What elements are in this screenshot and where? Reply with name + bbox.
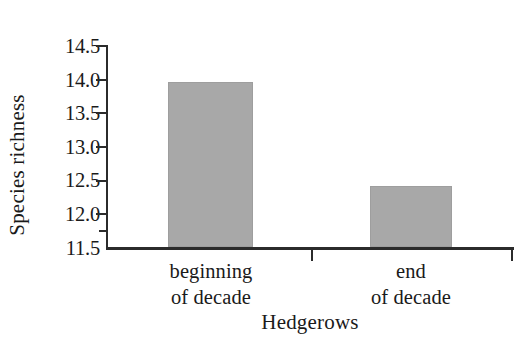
y-tick-label-13-5: 13.5 [34, 103, 100, 124]
x-tick-mark-separator [311, 248, 313, 261]
y-tick-mark-12-0 [96, 213, 108, 215]
y-tick-label-14-0: 14.0 [34, 70, 100, 91]
y-tick-label-group: 14.5 14.0 13.5 13.0 12.5 12.0 11.5 [34, 0, 100, 350]
y-tick-label-14-5: 14.5 [34, 36, 100, 57]
y-tick-label-12-5: 12.5 [34, 170, 100, 191]
y-tick-mark-13-0 [96, 146, 108, 148]
x-category-label-beginning-line1: beginning [170, 260, 253, 282]
y-axis-title: Species richness [0, 50, 34, 280]
x-axis-line [106, 247, 514, 250]
x-category-label-end-line2: of decade [350, 284, 472, 310]
x-category-label-beginning: beginning of decade [150, 258, 272, 310]
bar-end-of-decade[interactable] [370, 186, 452, 247]
y-tick-label-11-5: 11.5 [34, 238, 100, 259]
bar-chart-figure: Species richness 14.5 14.0 13.5 13.0 12.… [0, 0, 528, 350]
x-category-label-end-line1: end [396, 260, 426, 282]
y-axis-top-cap-tick [96, 45, 108, 47]
y-tick-label-12-0: 12.0 [34, 204, 100, 225]
x-axis-title: Hedgerows [106, 310, 514, 335]
x-category-label-end: end of decade [350, 258, 472, 310]
y-tick-label-13-0: 13.0 [34, 137, 100, 158]
y-tick-mark-13-5 [96, 112, 108, 114]
x-axis-right-cap-tick [511, 248, 513, 261]
bar-beginning-of-decade[interactable] [168, 82, 253, 247]
y-tick-mark-12-5 [96, 180, 108, 182]
y-tick-mark-minor-11-75 [99, 230, 108, 232]
x-category-label-beginning-line2: of decade [150, 284, 272, 310]
y-tick-mark-14-0 [96, 79, 108, 81]
